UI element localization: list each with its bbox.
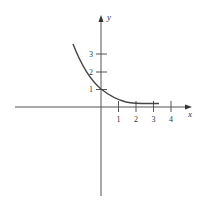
y-axis-arrow-icon	[99, 15, 104, 22]
x-axis-label: x	[187, 109, 192, 119]
x-tick-label: 3	[152, 115, 156, 124]
y-tick-label: 3	[89, 50, 93, 59]
y-axis-label: y	[106, 12, 111, 22]
x-tick-label: 2	[134, 115, 138, 124]
x-tick-label: 4	[169, 115, 173, 124]
x-tick-label: 1	[117, 115, 121, 124]
y-tick-label: 1	[89, 85, 93, 94]
curve	[73, 44, 159, 104]
graph: 1 2 3 4 1 2 3 x y	[0, 0, 202, 203]
